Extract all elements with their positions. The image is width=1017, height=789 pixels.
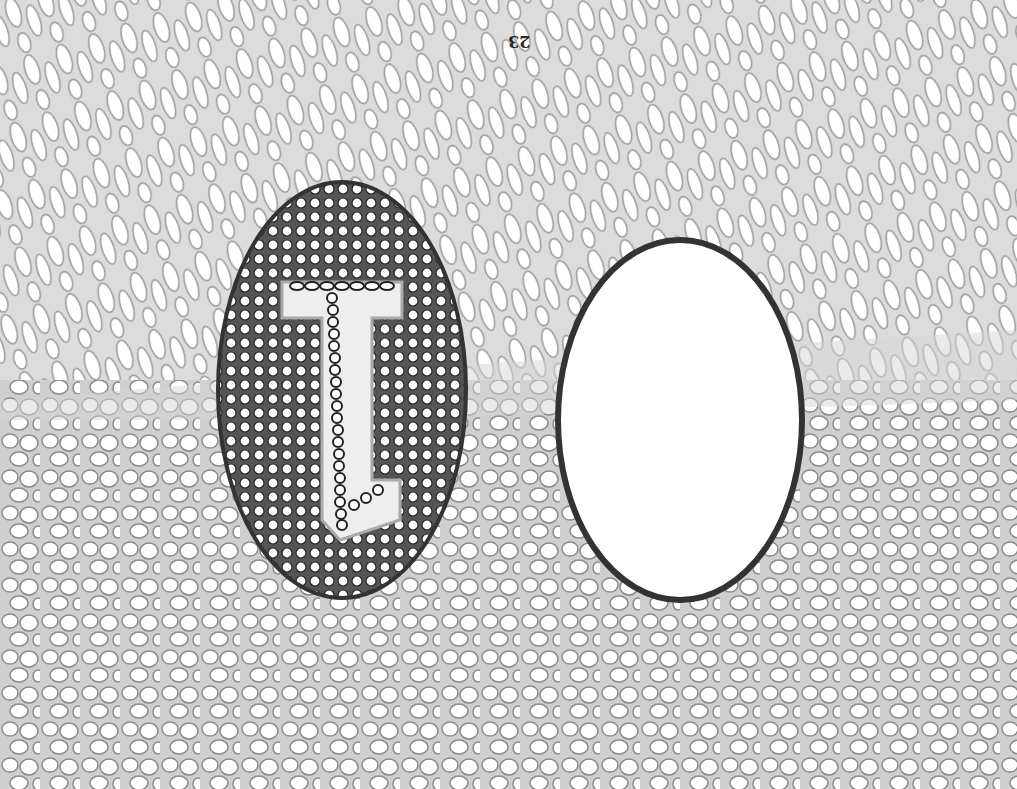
left-cell-oval <box>218 182 466 598</box>
right-empty-oval <box>558 240 802 600</box>
lower-round-cells <box>0 380 1017 789</box>
illustration-canvas: 23 <box>0 0 1017 789</box>
page-number: 23 <box>508 32 530 51</box>
cell-pattern-drawing <box>0 0 1017 789</box>
